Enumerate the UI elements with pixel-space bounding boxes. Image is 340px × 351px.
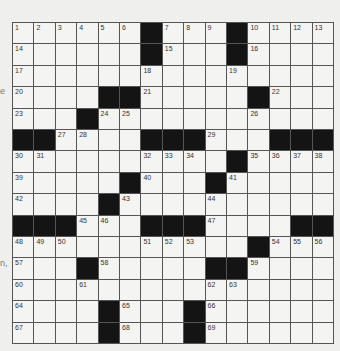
crossword-cell[interactable] (313, 323, 333, 343)
crossword-cell[interactable] (163, 194, 183, 214)
crossword-cell[interactable]: 27 (56, 130, 76, 150)
crossword-cell[interactable]: 42 (13, 194, 33, 214)
crossword-cell[interactable]: 8 (184, 23, 204, 43)
crossword-cell[interactable]: 21 (141, 87, 161, 107)
crossword-cell[interactable]: 53 (184, 237, 204, 257)
crossword-cell[interactable] (184, 66, 204, 86)
crossword-cell[interactable] (248, 130, 268, 150)
crossword-cell[interactable] (77, 44, 97, 64)
crossword-cell[interactable] (77, 87, 97, 107)
crossword-cell[interactable] (270, 66, 290, 86)
crossword-cell[interactable]: 57 (13, 258, 33, 278)
crossword-cell[interactable]: 51 (141, 237, 161, 257)
crossword-cell[interactable] (313, 87, 333, 107)
crossword-cell[interactable]: 49 (34, 237, 54, 257)
crossword-cell[interactable] (99, 66, 119, 86)
crossword-cell[interactable] (206, 237, 226, 257)
crossword-cell[interactable] (163, 280, 183, 300)
crossword-cell[interactable] (291, 194, 311, 214)
crossword-cell[interactable] (34, 109, 54, 129)
crossword-cell[interactable]: 25 (120, 109, 140, 129)
crossword-cell[interactable]: 9 (206, 23, 226, 43)
crossword-cell[interactable] (270, 258, 290, 278)
crossword-cell[interactable]: 35 (248, 151, 268, 171)
crossword-cell[interactable] (120, 216, 140, 236)
crossword-cell[interactable]: 32 (141, 151, 161, 171)
crossword-cell[interactable] (77, 151, 97, 171)
crossword-cell[interactable] (270, 280, 290, 300)
crossword-cell[interactable] (248, 216, 268, 236)
crossword-cell[interactable]: 11 (270, 23, 290, 43)
crossword-cell[interactable]: 12 (291, 23, 311, 43)
crossword-cell[interactable] (34, 194, 54, 214)
crossword-cell[interactable]: 23 (13, 109, 33, 129)
crossword-cell[interactable]: 36 (270, 151, 290, 171)
crossword-cell[interactable]: 46 (99, 216, 119, 236)
crossword-cell[interactable] (56, 151, 76, 171)
crossword-cell[interactable] (141, 323, 161, 343)
crossword-cell[interactable]: 47 (206, 216, 226, 236)
crossword-cell[interactable]: 50 (56, 237, 76, 257)
crossword-cell[interactable]: 20 (13, 87, 33, 107)
crossword-cell[interactable] (163, 66, 183, 86)
crossword-cell[interactable]: 4 (77, 23, 97, 43)
crossword-cell[interactable] (34, 87, 54, 107)
crossword-cell[interactable]: 63 (227, 280, 247, 300)
crossword-cell[interactable]: 69 (206, 323, 226, 343)
crossword-cell[interactable]: 40 (141, 173, 161, 193)
crossword-cell[interactable] (141, 109, 161, 129)
crossword-cell[interactable] (34, 258, 54, 278)
crossword-cell[interactable]: 2 (34, 23, 54, 43)
crossword-cell[interactable]: 29 (206, 130, 226, 150)
crossword-cell[interactable] (270, 301, 290, 321)
crossword-cell[interactable] (141, 258, 161, 278)
crossword-cell[interactable]: 22 (270, 87, 290, 107)
crossword-cell[interactable] (56, 258, 76, 278)
crossword-cell[interactable]: 62 (206, 280, 226, 300)
crossword-cell[interactable] (77, 173, 97, 193)
crossword-cell[interactable] (313, 280, 333, 300)
crossword-cell[interactable]: 67 (13, 323, 33, 343)
crossword-cell[interactable] (291, 44, 311, 64)
crossword-cell[interactable] (56, 194, 76, 214)
crossword-cell[interactable] (163, 301, 183, 321)
crossword-cell[interactable] (227, 87, 247, 107)
crossword-cell[interactable] (77, 194, 97, 214)
crossword-cell[interactable] (313, 258, 333, 278)
crossword-cell[interactable] (206, 44, 226, 64)
crossword-cell[interactable]: 13 (313, 23, 333, 43)
crossword-cell[interactable]: 1 (13, 23, 33, 43)
crossword-cell[interactable] (270, 44, 290, 64)
crossword-cell[interactable] (56, 173, 76, 193)
crossword-cell[interactable] (77, 301, 97, 321)
crossword-cell[interactable]: 68 (120, 323, 140, 343)
crossword-cell[interactable] (206, 66, 226, 86)
crossword-cell[interactable] (120, 44, 140, 64)
crossword-cell[interactable]: 60 (13, 280, 33, 300)
crossword-cell[interactable] (163, 323, 183, 343)
crossword-cell[interactable] (291, 323, 311, 343)
crossword-cell[interactable]: 5 (99, 23, 119, 43)
crossword-cell[interactable]: 26 (248, 109, 268, 129)
crossword-cell[interactable] (99, 44, 119, 64)
crossword-cell[interactable]: 52 (163, 237, 183, 257)
crossword-cell[interactable] (291, 258, 311, 278)
crossword-cell[interactable] (291, 173, 311, 193)
crossword-cell[interactable] (163, 109, 183, 129)
crossword-cell[interactable] (120, 237, 140, 257)
crossword-cell[interactable] (227, 237, 247, 257)
crossword-cell[interactable] (227, 323, 247, 343)
crossword-cell[interactable] (163, 173, 183, 193)
crossword-cell[interactable] (227, 109, 247, 129)
crossword-cell[interactable] (227, 216, 247, 236)
crossword-cell[interactable] (270, 216, 290, 236)
crossword-cell[interactable] (99, 173, 119, 193)
crossword-cell[interactable] (248, 66, 268, 86)
crossword-cell[interactable] (184, 194, 204, 214)
crossword-cell[interactable]: 14 (13, 44, 33, 64)
crossword-cell[interactable]: 15 (163, 44, 183, 64)
crossword-cell[interactable] (34, 301, 54, 321)
crossword-cell[interactable] (34, 280, 54, 300)
crossword-cell[interactable] (313, 301, 333, 321)
crossword-cell[interactable]: 3 (56, 23, 76, 43)
